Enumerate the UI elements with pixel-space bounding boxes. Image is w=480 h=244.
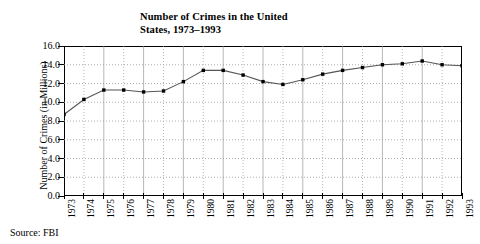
x-tick-label: 1984 (286, 199, 296, 218)
data-point-marker (122, 88, 125, 91)
x-tick-label: 1986 (326, 199, 336, 218)
x-tick-mark (223, 193, 224, 199)
x-tick-mark (302, 193, 303, 199)
y-tick-label: 4.0 (28, 154, 60, 164)
x-tick-label: 1978 (167, 199, 177, 218)
y-tick-label: 10.0 (28, 97, 60, 107)
x-tick-mark (83, 193, 84, 199)
y-tick-label: 2.0 (28, 172, 60, 182)
y-tick-label: 16.0 (28, 41, 60, 51)
line-chart-svg (64, 46, 462, 196)
x-tick-label: 1973 (68, 199, 78, 218)
x-tick-label: 1974 (87, 199, 97, 218)
x-tick-mark (342, 193, 343, 199)
data-point-marker (381, 63, 384, 66)
x-tick-label: 1980 (207, 199, 217, 218)
x-tick-mark (442, 193, 443, 199)
data-point-marker (281, 83, 284, 86)
x-tick-mark (462, 193, 463, 199)
data-point-marker (102, 88, 105, 91)
data-point-marker (341, 69, 344, 72)
x-tick-mark (263, 193, 264, 199)
x-tick-mark (64, 193, 65, 199)
data-point-marker (401, 62, 404, 65)
x-tick-label: 1977 (147, 199, 157, 218)
data-point-marker (361, 66, 364, 69)
x-tick-label: 1988 (366, 199, 376, 218)
x-tick-label: 1983 (267, 199, 277, 218)
source-note: Source: FBI (10, 227, 59, 238)
x-tick-label: 1985 (306, 199, 316, 218)
data-point-marker (222, 69, 225, 72)
x-tick-label: 1981 (227, 199, 237, 218)
x-tick-mark (422, 193, 423, 199)
x-tick-label: 1979 (187, 199, 197, 218)
x-tick-label: 1982 (247, 199, 257, 218)
data-point-marker (321, 72, 324, 75)
data-point-marker (460, 64, 462, 67)
chart-title-line-1: Number of Crimes in the United (140, 10, 380, 23)
data-point-marker (261, 80, 264, 83)
x-tick-mark (203, 193, 204, 199)
x-tick-label: 1987 (346, 199, 356, 218)
x-tick-label: 1992 (446, 199, 456, 218)
x-tick-mark (243, 193, 244, 199)
data-point-marker (440, 63, 443, 66)
x-tick-label: 1975 (107, 199, 117, 218)
x-tick-mark (123, 193, 124, 199)
chart-title: Number of Crimes in the United States, 1… (140, 10, 380, 36)
x-tick-mark (362, 193, 363, 199)
x-tick-mark (103, 193, 104, 199)
x-tick-mark (322, 193, 323, 199)
x-tick-label: 1993 (466, 199, 476, 218)
x-axis-tick-labels: 1973197419751976197719781979198019811982… (64, 199, 462, 243)
y-tick-label: 0.0 (28, 191, 60, 201)
x-tick-mark (282, 193, 283, 199)
y-tick-label: 14.0 (28, 60, 60, 70)
y-tick-label: 12.0 (28, 79, 60, 89)
x-tick-label: 1976 (127, 199, 137, 218)
y-axis-tick-labels: 0.02.04.06.08.010.012.014.016.0 (22, 46, 60, 196)
data-point-marker (162, 89, 165, 92)
y-tick-label: 6.0 (28, 135, 60, 145)
data-point-marker (64, 113, 66, 116)
data-point-marker (241, 73, 244, 76)
x-tick-label: 1989 (386, 199, 396, 218)
data-point-marker (142, 90, 145, 93)
x-tick-mark (402, 193, 403, 199)
data-point-marker (301, 78, 304, 81)
chart-title-line-2: States, 1973–1993 (140, 23, 380, 36)
x-tick-label: 1991 (426, 199, 436, 218)
x-tick-mark (143, 193, 144, 199)
x-tick-label: 1990 (406, 199, 416, 218)
plot-area (64, 46, 462, 196)
data-point-marker (202, 69, 205, 72)
x-tick-mark (183, 193, 184, 199)
y-tick-label: 8.0 (28, 116, 60, 126)
chart-figure: Number of Crimes in the United States, 1… (0, 0, 480, 244)
data-point-marker (182, 80, 185, 83)
data-point-marker (82, 98, 85, 101)
x-tick-mark (163, 193, 164, 199)
x-tick-mark (382, 193, 383, 199)
data-point-marker (421, 59, 424, 62)
